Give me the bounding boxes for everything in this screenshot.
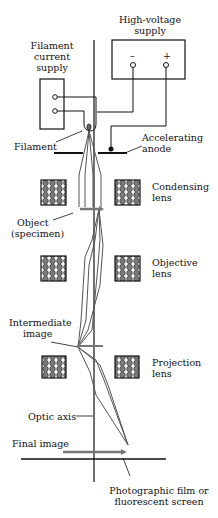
- label-optic-axis: Optic axis: [28, 411, 76, 422]
- label-intermediate-image: Intermediate image: [9, 317, 72, 339]
- label-projection-lens: Projection lens: [152, 357, 201, 379]
- label-accelerating-anode: Accelerating anode: [142, 132, 203, 154]
- electron-microscope-diagram: High-voltage supply – + Filament current…: [0, 0, 218, 518]
- label-filament: Filament: [14, 141, 57, 152]
- label-minus: –: [130, 50, 135, 61]
- filament-tip: [87, 124, 91, 130]
- electron-rays: [78, 131, 128, 445]
- high-voltage-supply-box: [112, 40, 185, 79]
- condensing-lens-coils: [41, 180, 140, 205]
- label-high-voltage-supply: High-voltage supply: [118, 14, 182, 36]
- label-object-specimen: Object (specimen): [11, 217, 64, 239]
- filament-supply-box: [40, 79, 64, 129]
- object-arrow: [80, 206, 104, 212]
- label-objective-lens: Objective lens: [152, 257, 198, 279]
- final-image-arrow: [63, 449, 127, 455]
- label-plus: +: [163, 50, 171, 61]
- label-final-image: Final image: [12, 438, 69, 449]
- label-filament-current-supply: Filament current supply: [28, 40, 76, 73]
- label-condensing-lens: Condensing lens: [152, 181, 209, 203]
- label-photographic-screen: Photographic film or fluorescent screen: [104, 485, 214, 507]
